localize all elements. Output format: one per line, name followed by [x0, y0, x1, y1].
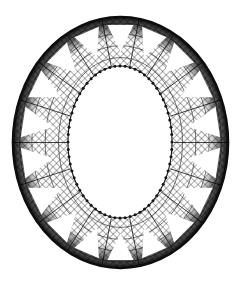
oval-lace-mesh-figure: Oval openwork lace mesh ring Monochrome … — [0, 0, 241, 282]
illustration-root: Oval openwork lace mesh ring Monochrome … — [0, 0, 241, 282]
